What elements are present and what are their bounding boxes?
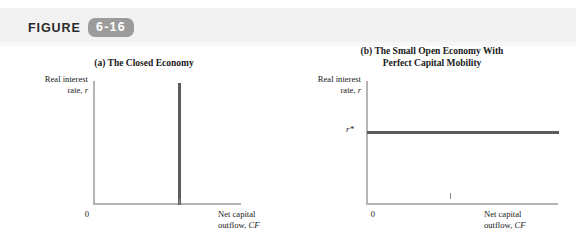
panel-a-plot-area	[93, 81, 241, 205]
panel-b-y-axis	[366, 81, 368, 205]
panel-b-rstar-label: r*	[346, 124, 354, 134]
figure-number-badge: 6-16	[88, 18, 134, 37]
panel-a-y-axis	[93, 81, 95, 205]
panel-b-y-axis-symbol: r	[358, 85, 361, 95]
panel-b-x-axis-label-line1: Net capital	[484, 209, 521, 219]
panel-b-x-axis-label: Net capital outflow, CF	[484, 209, 525, 230]
panel-b-y-axis-label: Real interest rate, r	[289, 74, 361, 95]
panel-b-y-axis-label-line2: rate,	[340, 85, 357, 95]
panel-a: (a) The Closed Economy Real interest rat…	[0, 46, 288, 243]
panel-b-title: (b) The Small Open Economy With Perfect …	[288, 45, 576, 69]
panel-a-y-axis-symbol: r	[85, 85, 88, 95]
panel-b-y-axis-label-line1: Real interest	[318, 74, 361, 84]
panel-b-plot-area	[366, 81, 558, 205]
panel-a-cf-curve	[178, 83, 181, 205]
panel-b-zero-tick-label: 0	[366, 209, 380, 219]
panel-b-title-line1: (b) The Small Open Economy With	[361, 46, 504, 56]
panel-a-x-axis-label-line2: outflow,	[218, 220, 248, 230]
panel-b-x-axis-label-line2: outflow,	[484, 220, 514, 230]
panel-a-zero-tick	[179, 199, 180, 205]
panel-a-y-axis-label-line2: rate,	[67, 85, 84, 95]
panel-a-x-axis-label: Net capital outflow, CF	[218, 209, 259, 230]
panel-a-x-axis-label-line1: Net capital	[218, 209, 255, 219]
figure-label: FIGURE	[28, 21, 81, 35]
panel-a-title: (a) The Closed Economy	[0, 57, 288, 69]
panel-b-rstar-curve	[367, 131, 559, 134]
panel-a-y-axis-label: Real interest rate, r	[16, 74, 88, 95]
panel-a-x-axis-symbol: CF	[248, 220, 259, 230]
panel-b-x-axis	[366, 203, 558, 205]
figure-container: FIGURE 6-16 (a) The Closed Economy Real …	[0, 0, 576, 243]
panel-a-x-axis	[93, 203, 241, 205]
panel-b-zero-tick	[450, 193, 451, 199]
panel-a-y-axis-label-line1: Real interest	[45, 74, 88, 84]
panel-b-x-axis-symbol: CF	[514, 220, 525, 230]
panel-b: (b) The Small Open Economy With Perfect …	[288, 46, 576, 243]
panel-b-title-line2: Perfect Capital Mobility	[383, 58, 482, 68]
panel-a-zero-tick-label: 0	[80, 209, 94, 219]
header-band	[0, 8, 576, 42]
